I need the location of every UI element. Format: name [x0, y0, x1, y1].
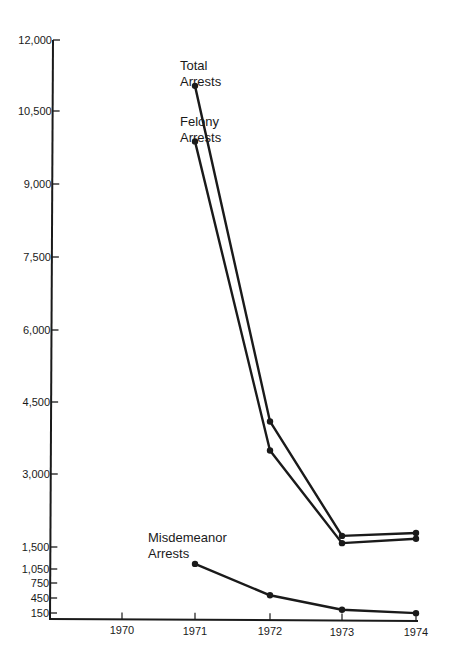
- y-tick-label: 3,000: [22, 468, 50, 480]
- y-tick-label: 6,000: [23, 324, 51, 336]
- x-tick-label: 1970: [110, 624, 134, 636]
- data-point: [413, 530, 419, 536]
- series-line-misdemeanor-arrests: [195, 564, 416, 613]
- x-tick-label: 1971: [183, 625, 207, 637]
- x-axis: [49, 619, 418, 621]
- x-tick-label: 1974: [404, 626, 428, 638]
- y-tick-label: 450: [31, 592, 49, 604]
- y-tick-label: 7,500: [23, 251, 51, 263]
- series-label: Arrests: [180, 74, 222, 89]
- series-label: Total: [180, 58, 208, 73]
- y-ticks: 12,00010,5009,0007,5006,0004,5003,0001,5…: [18, 34, 60, 619]
- x-tick-label: 1973: [330, 626, 354, 638]
- x-tick-label: 1972: [258, 625, 282, 637]
- data-point: [413, 610, 419, 616]
- y-tick-label: 150: [31, 607, 49, 619]
- x-ticks: 19701971197219731974: [110, 612, 428, 638]
- series-line-total-arrests: [195, 86, 416, 536]
- series-label: Misdemeanor: [148, 530, 227, 545]
- data-point: [267, 447, 273, 453]
- data-point: [339, 540, 345, 546]
- series-labels: TotalArrestsFelonyArrestsMisdemeanorArre…: [148, 58, 227, 561]
- data-point: [339, 607, 345, 613]
- data-point: [339, 533, 345, 539]
- data-point: [413, 536, 419, 542]
- series-line-felony-arrests: [195, 141, 416, 543]
- axes: [49, 40, 418, 621]
- data-point: [192, 561, 198, 567]
- y-tick-label: 10,500: [18, 105, 52, 117]
- y-tick-label: 750: [31, 577, 49, 589]
- series-label: Arrests: [148, 546, 190, 561]
- y-tick-label: 1,050: [22, 563, 50, 575]
- arrests-line-chart: 12,00010,5009,0007,5006,0004,5003,0001,5…: [0, 0, 452, 654]
- series-label: Felony: [180, 114, 220, 129]
- y-tick-label: 4,500: [23, 396, 51, 408]
- data-point: [267, 418, 273, 424]
- series-label: Arrests: [180, 130, 222, 145]
- data-point: [267, 592, 273, 598]
- y-tick-label: 9,000: [24, 178, 52, 190]
- y-tick-label: 1,500: [22, 541, 50, 553]
- y-tick-label: 12,000: [18, 34, 52, 46]
